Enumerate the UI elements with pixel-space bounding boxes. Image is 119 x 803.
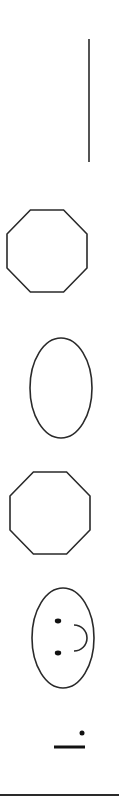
octagon-top	[7, 210, 87, 292]
face-outline	[32, 588, 94, 688]
ellipse	[30, 338, 92, 438]
shapes-group	[0, 39, 119, 795]
mouth-arc	[74, 625, 87, 651]
eye-1	[55, 619, 61, 624]
smiley-face	[32, 588, 94, 688]
eye-2	[55, 651, 61, 656]
diagram-canvas	[0, 0, 119, 803]
dot	[80, 731, 85, 736]
octagon-bottom	[10, 472, 90, 554]
